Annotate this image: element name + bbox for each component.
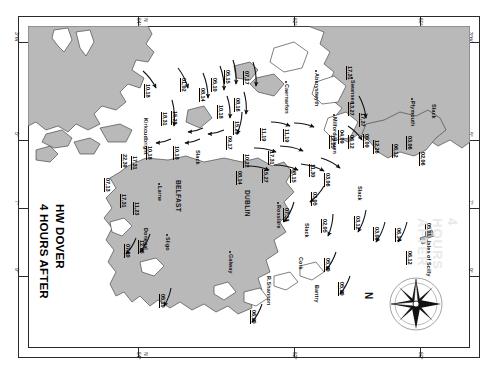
tidal-rate-label: 02,06 <box>419 152 426 166</box>
tidal-rate-label: 15,29 <box>233 121 240 135</box>
chart-outer: 54° N 52° 50° 54° N 52° 50° 3°W 5° 7° 9°… <box>8 8 489 366</box>
tidal-rate-label: 06,10 <box>250 310 257 324</box>
graticule-label-left-3w: 3°W <box>14 32 20 42</box>
graticule-label-top-n: N <box>143 18 149 22</box>
graticule-label-left-5: 5° <box>14 132 20 137</box>
place-label: Rosslare <box>276 205 282 229</box>
tidal-rate-label: 07,13 <box>283 208 290 222</box>
slack-water-label: Slack <box>431 104 437 119</box>
graticule-tick-right <box>469 208 479 209</box>
tidal-rate-label: 05,10 <box>324 258 331 272</box>
place-label: BELFAST <box>175 180 182 212</box>
place-label: Sligo <box>165 237 171 251</box>
tidal-rate-label: 12,26 <box>138 240 145 254</box>
tidal-rate-label: 22,39 <box>121 154 128 168</box>
graticule-label-bottom-54n: 54° <box>136 352 142 360</box>
tidal-rate-label: 07,13 <box>104 178 111 192</box>
place-label: Plymouth <box>410 101 416 126</box>
tidal-rate-label: 17,31 <box>131 156 138 170</box>
place-label: Cork <box>298 257 304 270</box>
compass-north-label: N <box>363 292 374 299</box>
tidal-rate-label: 06,12 <box>406 251 413 265</box>
tidal-rate-label: 08,16 <box>234 98 241 112</box>
tidal-rate-label: 01,02 <box>180 78 187 92</box>
tidal-rate-label: 11,19 <box>260 128 267 141</box>
place-label: Swansea <box>350 80 356 104</box>
tidal-rate-label: 11,19 <box>283 129 290 142</box>
tidal-rate-label: 17,31 <box>346 66 353 80</box>
tidal-rate-label: 13,27 <box>348 102 355 116</box>
graticule-label-top-54n: 54° <box>136 18 142 26</box>
place-label: DUBLIN <box>244 190 251 217</box>
tidal-rate-label: 17,31 <box>120 194 127 208</box>
tidal-rate-label: 10,18 <box>217 105 224 119</box>
graticule-label-bottom-n: N <box>143 352 149 356</box>
place-label: Aberystwyth <box>314 73 320 106</box>
graticule-tick-left <box>18 140 28 141</box>
tidal-rate-label: 17,37 <box>359 113 366 127</box>
tidal-rate-label: 07,17 <box>243 71 250 85</box>
tidal-rate-label: 18,31 <box>161 112 168 126</box>
place-label: Caernarfon <box>284 84 290 114</box>
background-watermark: 4 HOURS AFTER <box>415 218 460 270</box>
graticule-tick-right <box>469 42 479 43</box>
place-label: Larne <box>157 186 163 201</box>
chart-title-line2: HW DOVER <box>53 204 67 269</box>
tidal-rate-label: 05,10 <box>338 282 345 296</box>
graticule-label-left-7: 7° <box>14 200 20 205</box>
tidal-rate-label: 05,10 <box>159 294 166 308</box>
chart-title-line1: 4 HOURS AFTER <box>37 204 51 299</box>
tidal-rate-label: 10,22 <box>243 154 250 168</box>
graticule-label-left-9: 9° <box>14 268 20 273</box>
tidal-rate-label: 10,18 <box>173 146 180 160</box>
slack-water-label: Slack <box>357 186 363 201</box>
graticule-tick-left <box>18 276 28 277</box>
tidal-rate-label: 10,18 <box>146 146 153 160</box>
tidal-rate-label: 15,23 <box>171 111 178 125</box>
tidal-rate-label: 11,30 <box>309 164 316 177</box>
tidal-rate-label: 03,06 <box>324 173 331 187</box>
tidal-rate-label: 03,06 <box>373 227 380 241</box>
graticule-label-top-50: 50° <box>418 18 424 26</box>
tidal-rate-label: 11,23 <box>133 202 140 215</box>
tidal-rate-label: 10,18 <box>144 84 151 98</box>
slack-water-label: Slack <box>195 150 201 165</box>
tidal-rate-label: 08,15 <box>290 169 297 183</box>
tidal-rate-label: 15,27 <box>262 169 269 183</box>
tidal-stream-atlas-page: 54° N 52° 50° 54° N 52° 50° 3°W 5° 7° 9°… <box>0 0 497 374</box>
tidal-rate-label: 04,09 <box>338 130 345 144</box>
tidal-rate-label: 09,17 <box>226 136 233 150</box>
tidal-rate-label: 12,25 <box>329 135 336 149</box>
tidal-rate-label: 08,14 <box>236 171 243 185</box>
tidal-rate-label: 03,12 <box>354 216 361 230</box>
tidal-rate-label: 05,15 <box>224 70 231 84</box>
tidal-rate-label: 17,31 <box>268 151 275 165</box>
tidal-rate-label: 03,06 <box>406 136 413 150</box>
tidal-rate-label: 06,12 <box>392 144 399 158</box>
tidal-rate-label: 02,05 <box>321 219 328 233</box>
tidal-rate-label: 07,20 <box>124 244 131 258</box>
graticule-label-bottom-52: 52° <box>292 352 298 360</box>
graticule-tick-right <box>469 276 479 277</box>
graticule-tick-left <box>18 42 28 43</box>
tidal-rate-label: 06,12 <box>348 135 355 149</box>
tidal-rate-label: 06,14 <box>395 228 402 242</box>
place-label: Galway <box>228 254 234 273</box>
tidal-rate-label: 05,10 <box>211 78 218 92</box>
slack-water-label: Slack <box>304 223 310 238</box>
tidal-rate-label: 08,14 <box>199 88 206 102</box>
graticule-label-top-52: 52° <box>292 18 298 26</box>
graticule-label-bottom-50: 50° <box>418 352 424 360</box>
place-label: R.Shannon <box>266 276 272 305</box>
place-label: Bantry <box>314 285 320 303</box>
tidal-rate-label: 05,09 <box>363 134 370 148</box>
graticule-tick-left <box>18 208 28 209</box>
tidal-rate-label: 03,05 <box>311 192 318 206</box>
compass-rose <box>388 276 444 336</box>
graticule-tick-right <box>469 140 479 141</box>
tidal-rate-label: 12,26 <box>373 140 380 154</box>
